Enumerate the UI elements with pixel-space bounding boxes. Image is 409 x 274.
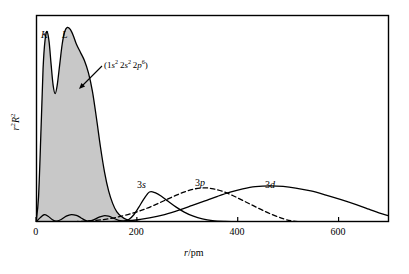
- x-tick-label-200: 200: [129, 227, 144, 237]
- radial-distribution-chart: [0, 0, 409, 274]
- x-tick-label-400: 400: [230, 227, 245, 237]
- k-shell-label: K: [41, 30, 48, 40]
- orbital-3p-letter: p: [200, 177, 205, 188]
- y-axis-r-exponent: 2: [9, 123, 16, 126]
- y-axis-r-symbol: r: [10, 127, 21, 131]
- config-open-paren: (1: [104, 60, 112, 70]
- y-axis-title-text: r2R2: [11, 114, 21, 131]
- config-close-paren: ): [145, 60, 148, 70]
- electron-configuration-label: (1s2 2s2 2p6): [104, 61, 148, 70]
- orbital-label-3d: 3d: [265, 180, 275, 190]
- l-shell-label: L: [62, 30, 68, 40]
- config-1s-exp: 2: [115, 59, 118, 65]
- x-axis-title: r/pm: [184, 248, 203, 258]
- y-axis-title: r2R2: [8, 96, 24, 148]
- x-tick-label-0: 0: [33, 227, 38, 237]
- config-2s-exp: 2: [128, 59, 131, 65]
- x-tick-label-600: 600: [330, 227, 345, 237]
- orbital-3d-letter: d: [270, 179, 275, 190]
- orbital-label-3p: 3p: [195, 178, 205, 188]
- figure-container: r2R2 r/pm K L (1s2 2s2 2p6) 3s 3p 3d 020…: [0, 0, 409, 274]
- y-axis-R-symbol: R: [10, 117, 21, 123]
- orbital-3s-letter: s: [142, 179, 146, 190]
- orbital-label-3s: 3s: [137, 180, 146, 190]
- x-axis-units: /pm: [188, 247, 204, 258]
- core-shell-fill: [36, 27, 389, 222]
- y-axis-R-exponent: 2: [9, 114, 16, 117]
